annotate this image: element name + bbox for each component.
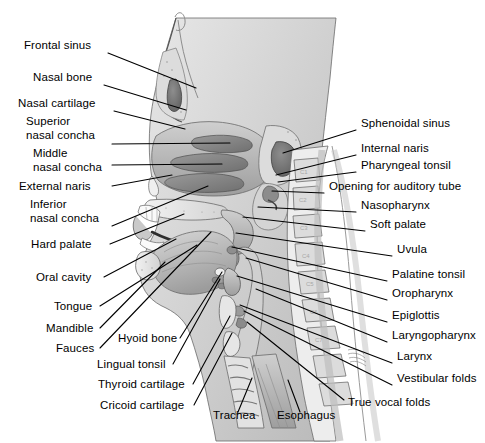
label-hard-palate: Hard palate [31, 238, 92, 252]
label-hyoid-bone: Hyoid bone [118, 332, 177, 346]
label-true-vocal-folds: True vocal folds [348, 396, 430, 410]
label-text-line2: nasal concha [30, 212, 99, 226]
label-laryngopharynx: Laryngopharynx [392, 329, 476, 343]
anatomy-figure: C1 C2 C3 C4 C5 C6 C7 Frontal sinusNas [0, 0, 485, 443]
label-text: External naris [19, 180, 91, 194]
label-text: Nasal bone [33, 71, 92, 85]
label-pharyngeal-tonsil: Pharyngeal tonsil [361, 159, 451, 173]
leader-line-nasopharynx [258, 207, 356, 212]
label-text: Palatine tonsil [392, 268, 465, 282]
label-text: Frontal sinus [24, 39, 91, 53]
label-text: Internal naris [361, 142, 429, 156]
label-external-naris: External naris [19, 180, 91, 194]
label-nasal-cartilage: Nasal cartilage [18, 97, 96, 111]
leader-line-hard-palate [110, 214, 184, 244]
label-tongue: Tongue [54, 300, 92, 314]
label-middle-nasal-concha: Middlenasal concha [33, 147, 102, 174]
label-epiglottis: Epiglottis [392, 309, 440, 323]
label-cricoid-cartilage: Cricoid cartilage [100, 399, 184, 413]
label-lingual-tonsil: Lingual tonsil [97, 358, 166, 372]
label-text: Epiglottis [392, 309, 440, 323]
label-text: Sphenoidal sinus [361, 117, 450, 131]
label-text: Oropharynx [392, 287, 453, 301]
leader-line-true-vocal-folds [247, 322, 344, 400]
label-text-line2: nasal concha [33, 161, 102, 175]
leader-line-nasal-bone [104, 85, 186, 110]
label-text: Inferior [30, 198, 99, 212]
label-soft-palate: Soft palate [370, 218, 426, 232]
leader-line-trachea [238, 378, 252, 412]
label-text: Fauces [56, 342, 94, 356]
label-text: Trachea [213, 409, 255, 423]
leader-line-epiglottis [237, 276, 387, 322]
label-text: Oral cavity [36, 271, 91, 285]
label-esophagus: Esophagus [277, 409, 335, 423]
label-oropharynx: Oropharynx [392, 287, 453, 301]
leader-line-oral-cavity [104, 239, 176, 277]
label-mandible: Mandible [46, 322, 93, 336]
label-text: Nasopharynx [361, 199, 430, 213]
leader-line-external-naris [112, 175, 172, 186]
label-text: Superior [26, 115, 95, 129]
leader-line-inferior-nasal-concha [112, 186, 208, 226]
label-text: Vestibular folds [397, 372, 477, 386]
label-thyroid-cartilage: Thyroid cartilage [98, 378, 185, 392]
label-opening-for-auditory-tube: Opening for auditory tube [329, 180, 461, 194]
leader-line-middle-nasal-concha [112, 164, 222, 165]
label-text: Nasal cartilage [18, 97, 96, 111]
leader-line-thyroid-cartilage [193, 316, 230, 384]
leader-line-lingual-tonsil [173, 279, 220, 364]
label-internal-naris: Internal naris [361, 142, 429, 156]
leader-line-vestibular-folds [244, 311, 392, 385]
leader-line-esophagus [288, 380, 300, 412]
label-text: Soft palate [370, 218, 426, 232]
label-text: Esophagus [277, 409, 335, 423]
label-superior-nasal-concha: Superiornasal concha [26, 115, 95, 142]
leader-line-cricoid-cartilage [194, 333, 232, 405]
label-text: True vocal folds [348, 396, 430, 410]
label-text: Hard palate [31, 238, 92, 252]
leader-line-mandible [100, 262, 165, 328]
label-text: Tongue [54, 300, 92, 314]
label-text: Uvula [397, 243, 427, 257]
label-palatine-tonsil: Palatine tonsil [392, 268, 465, 282]
label-text: Middle [33, 147, 102, 161]
label-text: Mandible [46, 322, 93, 336]
leader-line-nasal-cartilage [114, 111, 185, 129]
label-text: Hyoid bone [118, 332, 177, 346]
leader-line-internal-naris [276, 155, 356, 175]
label-frontal-sinus: Frontal sinus [24, 39, 91, 53]
label-inferior-nasal-concha: Inferiornasal concha [30, 198, 99, 225]
label-text: Opening for auditory tube [329, 180, 461, 194]
label-nasopharynx: Nasopharynx [361, 199, 430, 213]
label-text: Cricoid cartilage [100, 399, 184, 413]
label-trachea: Trachea [213, 409, 255, 423]
leader-line-opening-for-auditory-tube [272, 191, 324, 193]
label-text: Larynx [397, 350, 432, 364]
label-sphenoidal-sinus: Sphenoidal sinus [361, 117, 450, 131]
leader-line-superior-nasal-concha [112, 143, 230, 144]
label-text-line2: nasal concha [26, 129, 95, 143]
label-text: Lingual tonsil [97, 358, 166, 372]
label-uvula: Uvula [397, 243, 427, 257]
label-oral-cavity: Oral cavity [36, 271, 91, 285]
label-text: Thyroid cartilage [98, 378, 185, 392]
leader-line-soft-palate [243, 217, 365, 231]
label-text: Pharyngeal tonsil [361, 159, 451, 173]
label-nasal-bone: Nasal bone [33, 71, 92, 85]
label-larynx: Larynx [397, 350, 432, 364]
leader-line-hyoid-bone [180, 272, 222, 338]
label-text: Laryngopharynx [392, 329, 476, 343]
leader-line-sphenoidal-sinus [283, 130, 356, 153]
label-fauces: Fauces [56, 342, 94, 356]
leader-line-frontal-sinus [108, 53, 196, 88]
label-vestibular-folds: Vestibular folds [397, 372, 477, 386]
